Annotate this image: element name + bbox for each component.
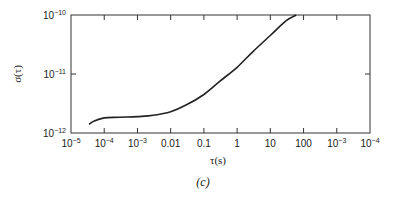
x-axis-label: τ(s) [210, 154, 226, 167]
x-tick-label: 10−4 [360, 137, 379, 149]
x-tick-label: 10−5 [61, 137, 80, 149]
x-tick-label: 0.1 [197, 138, 211, 149]
x-axis-ticks: 10−510−410−30.010.111010010−310−4 [61, 15, 379, 149]
y-tick-label: 10−10 [43, 9, 66, 21]
x-tick-label: 100 [295, 138, 312, 149]
figure-caption: (c) [196, 175, 209, 189]
allan-deviation-chart: 10−510−410−30.010.111010010−310−4 10−121… [0, 0, 394, 197]
x-tick-label: 10−3 [327, 137, 346, 149]
y-axis-label: σ(τ) [11, 65, 24, 83]
data-curve [89, 15, 296, 124]
y-axis-ticks: 10−1210−1110−10 [43, 9, 370, 139]
x-tick-label: 1 [234, 138, 240, 149]
x-tick-label: 10−4 [95, 137, 114, 149]
y-tick-label: 10−11 [44, 68, 67, 80]
plot-frame [71, 15, 370, 133]
x-tick-label: 10 [265, 138, 277, 149]
x-tick-label: 10−3 [128, 137, 147, 149]
x-tick-label: 0.01 [161, 138, 181, 149]
